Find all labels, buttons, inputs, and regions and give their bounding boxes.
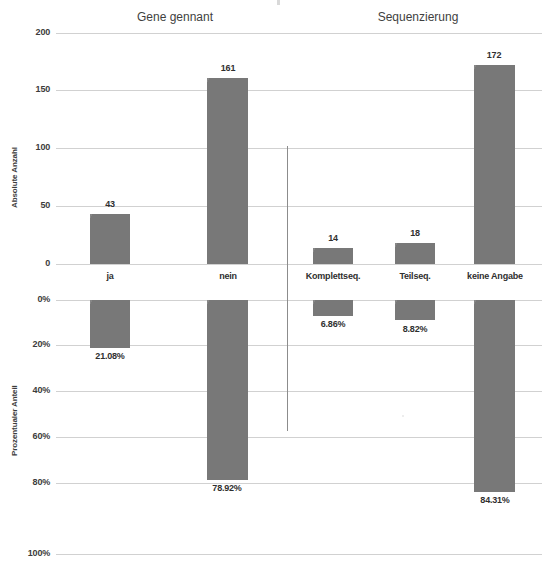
gridline-lower-40 — [56, 391, 542, 392]
bar-lower-komplettseq — [313, 300, 353, 316]
bar-lower-keine-angabe — [474, 300, 515, 492]
bar-chart-figure: Gene gennant Sequenzierung 200 150 100 5… — [0, 0, 542, 572]
value-label-lower-ja: 21.08% — [76, 351, 144, 361]
value-label-lower-komplettseq: 6.86% — [299, 319, 367, 329]
ytick-lower-0: 0% — [12, 294, 50, 304]
ytick-lower-20: 20% — [12, 339, 50, 349]
panel-title-gene-gennant: Gene gennant — [95, 10, 255, 24]
value-label-lower-nein: 78.92% — [193, 483, 261, 493]
gridline-upper-0 — [56, 264, 542, 265]
value-label-upper-keine-angabe: 172 — [464, 50, 524, 60]
category-label-komplettseq: Komplettseq. — [295, 271, 371, 281]
category-label-nein: nein — [193, 271, 263, 281]
gridline-lower-80 — [56, 483, 542, 484]
bar-upper-ja — [90, 214, 130, 264]
value-label-lower-teilseq: 8.82% — [381, 324, 449, 334]
bar-lower-ja — [90, 300, 130, 348]
category-label-teilseq: Teilseq. — [380, 271, 450, 281]
yaxis-title-absolute-anzahl: Absolute Anzahl — [10, 147, 19, 208]
gridline-lower-60 — [56, 437, 542, 438]
value-label-upper-teilseq: 18 — [385, 228, 445, 238]
value-label-upper-ja: 43 — [80, 199, 140, 209]
bar-upper-teilseq — [395, 243, 435, 264]
bar-lower-teilseq — [395, 300, 435, 320]
bar-upper-komplettseq — [313, 248, 353, 264]
gridline-upper-150 — [56, 90, 542, 91]
panel-divider — [287, 146, 288, 431]
bar-upper-nein — [207, 78, 248, 264]
category-label-ja: ja — [75, 271, 145, 281]
gridline-upper-200 — [56, 33, 542, 34]
scan-speck — [402, 415, 404, 417]
panel-title-sequenzierung: Sequenzierung — [338, 10, 498, 24]
value-label-upper-komplettseq: 14 — [303, 233, 363, 243]
category-label-keine-angabe: keine Angabe — [458, 271, 532, 281]
value-label-lower-keine-angabe: 84.31% — [461, 495, 529, 505]
ytick-lower-100: 100% — [8, 548, 50, 558]
ytick-upper-150: 150 — [12, 84, 50, 94]
gridline-lower-100 — [56, 554, 542, 555]
bar-upper-keine-angabe — [474, 65, 515, 264]
ytick-lower-80: 80% — [12, 477, 50, 487]
gridline-upper-100 — [56, 148, 542, 149]
scan-artifact — [277, 0, 280, 5]
ytick-upper-200: 200 — [12, 27, 50, 37]
bar-lower-nein — [207, 300, 248, 480]
value-label-upper-nein: 161 — [198, 63, 258, 73]
yaxis-title-prozentualer-anteil: Prozentualer Anteil — [10, 385, 19, 456]
ytick-upper-0: 0 — [12, 258, 50, 268]
